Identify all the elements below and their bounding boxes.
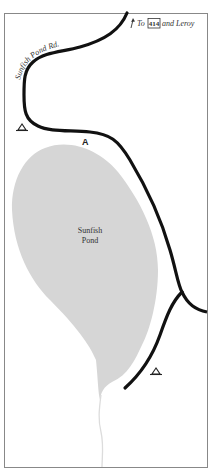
stream xyxy=(99,395,103,467)
pond-name-line2: Pond xyxy=(82,236,98,245)
campsite-triangle-icon xyxy=(16,124,28,131)
direction-label: To 414 and Leroy xyxy=(131,18,195,28)
road-branch-east xyxy=(182,292,207,312)
north-arrow-icon xyxy=(131,18,135,28)
point-marker-a: A xyxy=(82,137,89,147)
pond-name-line1: Sunfish xyxy=(78,226,102,235)
campsite-triangle-icon xyxy=(150,368,162,375)
map-canvas: Sunfish Pond Rd. To 414 and Leroy A Sunf… xyxy=(0,0,213,472)
sunfish-pond xyxy=(12,144,158,400)
direction-suffix: and Leroy xyxy=(162,19,195,28)
direction-prefix: To xyxy=(137,19,145,28)
route-shield-icon: 414 xyxy=(148,19,160,29)
route-number: 414 xyxy=(149,20,160,28)
